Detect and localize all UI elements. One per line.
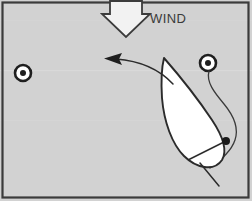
wind-label: WIND bbox=[150, 11, 186, 26]
buoy-mark-right bbox=[200, 55, 216, 71]
diagram-canvas: WIND bbox=[0, 0, 252, 201]
buoy-mark-left bbox=[15, 65, 31, 81]
crew-position-dot bbox=[222, 137, 230, 145]
sailing-diagram: WIND bbox=[0, 0, 252, 201]
